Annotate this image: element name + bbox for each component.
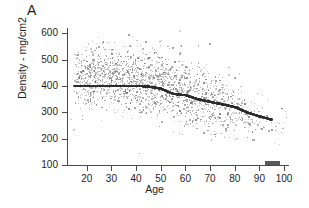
data-point	[173, 116, 175, 118]
data-point	[92, 102, 93, 103]
data-point	[138, 106, 139, 107]
data-point	[203, 132, 204, 133]
data-point	[214, 115, 215, 116]
data-point	[281, 108, 282, 109]
data-point	[149, 97, 150, 98]
data-point	[226, 94, 227, 95]
data-point	[145, 41, 147, 43]
data-point	[243, 106, 244, 107]
data-point	[123, 96, 124, 97]
data-point	[199, 105, 200, 106]
data-point	[239, 73, 241, 75]
data-point	[254, 103, 255, 104]
data-point	[181, 112, 182, 113]
data-point	[224, 136, 225, 137]
data-point	[173, 131, 174, 132]
data-point	[213, 80, 214, 81]
data-point	[104, 67, 105, 68]
x-tick-mark	[111, 166, 112, 171]
data-point	[93, 79, 94, 80]
x-tick-label: 100	[269, 173, 299, 184]
data-point	[144, 65, 145, 66]
data-point	[168, 59, 170, 61]
data-point	[179, 107, 180, 108]
data-point	[187, 86, 188, 87]
data-point	[279, 123, 280, 124]
data-point	[222, 110, 223, 111]
data-point	[159, 110, 160, 111]
data-point	[200, 111, 201, 112]
data-point	[80, 87, 81, 88]
data-point	[252, 131, 253, 132]
data-point	[130, 89, 131, 90]
data-point	[137, 69, 138, 70]
data-point	[172, 72, 173, 73]
data-point	[259, 122, 260, 123]
data-point	[183, 108, 184, 109]
data-point	[78, 103, 79, 104]
data-point	[146, 112, 147, 113]
data-point	[226, 119, 227, 120]
data-point	[182, 134, 183, 135]
data-point	[123, 71, 124, 72]
data-point	[113, 57, 114, 58]
data-point	[160, 58, 161, 59]
data-point	[143, 90, 144, 91]
data-point	[204, 90, 205, 91]
data-point	[100, 93, 101, 94]
data-point	[128, 34, 130, 36]
data-point	[268, 130, 270, 132]
data-point	[235, 139, 236, 140]
data-point	[250, 110, 251, 111]
data-point	[103, 41, 104, 42]
data-point	[222, 85, 223, 86]
data-point	[121, 96, 122, 97]
data-point	[152, 47, 153, 48]
data-point	[103, 47, 104, 48]
x-tick-mark	[235, 166, 236, 171]
data-point	[136, 40, 137, 41]
scatter-plot-area	[67, 28, 289, 165]
data-point	[169, 87, 170, 88]
data-point	[124, 110, 125, 111]
data-point	[128, 83, 129, 84]
data-point	[112, 80, 113, 81]
data-point	[141, 69, 142, 70]
data-point	[219, 74, 220, 75]
data-point	[235, 113, 236, 114]
data-point	[197, 74, 198, 75]
data-point	[170, 70, 171, 71]
data-point	[183, 64, 184, 65]
data-point	[98, 65, 99, 66]
data-point	[104, 89, 105, 90]
data-point	[159, 83, 160, 84]
data-point	[88, 79, 89, 80]
data-point	[92, 97, 93, 98]
data-point	[244, 103, 245, 104]
data-point	[203, 112, 204, 113]
data-point	[189, 91, 190, 92]
data-point	[238, 89, 239, 90]
data-point	[85, 50, 86, 51]
data-point	[204, 94, 205, 95]
data-point	[118, 82, 119, 83]
data-point	[123, 61, 124, 62]
data-point	[116, 76, 117, 77]
data-point	[104, 96, 105, 97]
data-point	[129, 78, 130, 79]
data-point	[97, 91, 98, 92]
data-point	[77, 79, 78, 80]
data-point	[96, 76, 97, 77]
data-point	[277, 122, 278, 123]
data-point	[159, 41, 160, 42]
data-point	[203, 73, 204, 74]
data-point	[89, 76, 91, 78]
data-point	[132, 102, 133, 103]
data-point	[100, 71, 101, 72]
data-point	[168, 74, 169, 75]
data-point	[253, 139, 254, 140]
data-point	[198, 62, 199, 63]
data-point	[215, 76, 216, 77]
data-point	[210, 119, 211, 120]
data-point	[263, 127, 264, 128]
